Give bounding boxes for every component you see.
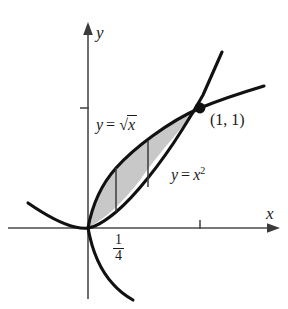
radicand: x — [127, 115, 137, 133]
intersection-point-label: (1, 1) — [210, 112, 245, 128]
x-axis-label: x — [266, 205, 274, 222]
x-quarter-fraction-label: 1 4 — [113, 233, 124, 263]
square-label-lhs: y — [171, 166, 178, 183]
calculus-region-figure — [0, 0, 288, 309]
sqrt-curve-label: y=√x — [96, 117, 137, 133]
fraction-numerator: 1 — [113, 233, 124, 248]
intersection-point-marker — [195, 103, 206, 114]
y-axis-label: y — [96, 24, 104, 41]
sqrt-label-lhs: y — [96, 116, 103, 133]
radical-group: √x — [118, 117, 137, 133]
square-curve-label: y=x2 — [171, 166, 205, 183]
fraction-denominator: 4 — [113, 248, 124, 264]
square-label-exponent: 2 — [200, 165, 205, 176]
square-label-equals: = — [181, 166, 190, 183]
sqrt-label-equals: = — [106, 116, 115, 133]
